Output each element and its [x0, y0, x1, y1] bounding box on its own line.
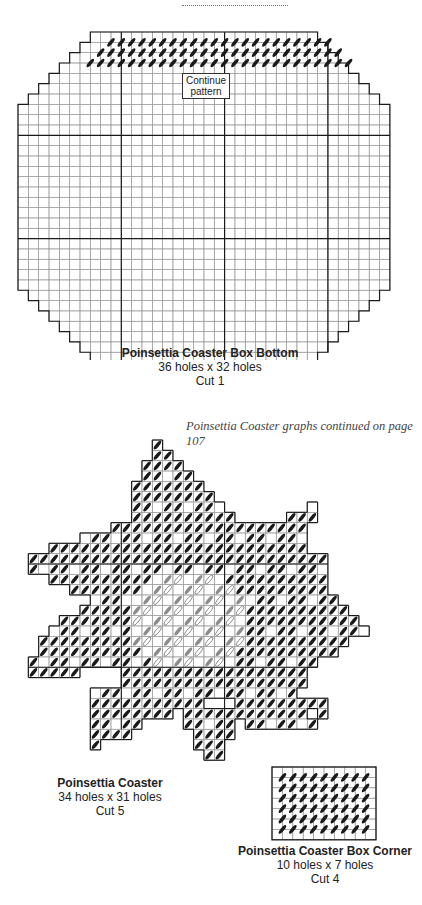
coaster-title: Poinsettia Coaster	[30, 776, 190, 790]
coaster-cut: Cut 5	[30, 804, 190, 818]
box-corner-size: 10 holes x 7 holes	[230, 858, 420, 872]
coaster-graph	[0, 0, 422, 905]
coaster-size: 34 holes x 31 holes	[30, 790, 190, 804]
box-corner-caption: Poinsettia Coaster Box Corner 10 holes x…	[230, 844, 420, 886]
coaster-caption: Poinsettia Coaster 34 holes x 31 holes C…	[30, 776, 190, 818]
box-corner-title: Poinsettia Coaster Box Corner	[230, 844, 420, 858]
box-corner-cut: Cut 4	[230, 872, 420, 886]
